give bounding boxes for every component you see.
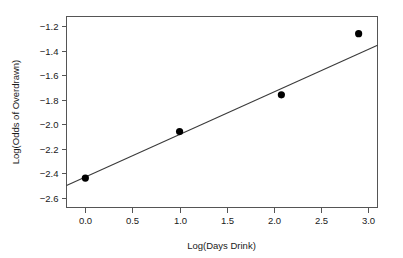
y-tick-label: −1.8 [40,95,59,106]
plot-frame [67,17,378,208]
y-tick-label: −1.4 [40,46,59,57]
chart-container: 0.00.51.01.52.02.53.0 −1.2−1.4−1.6−1.8−2… [0,0,403,258]
x-tick-label: 1.0 [174,215,187,226]
y-axis-title: Log(Odds of Overdrawn) [10,60,21,165]
x-tick-label: 2.0 [268,215,281,226]
x-axis-ticks [86,208,369,213]
x-axis-tick-labels: 0.00.51.01.52.02.53.0 [79,215,375,226]
x-tick-label: 0.5 [126,215,139,226]
x-tick-label: 2.5 [315,215,328,226]
y-tick-label: −1.6 [40,70,59,81]
x-tick-label: 1.5 [221,215,234,226]
y-tick-label: −1.2 [40,21,59,32]
data-point [278,91,285,98]
y-tick-label: −2.6 [40,193,59,204]
y-axis-tick-labels: −1.2−1.4−1.6−1.8−2.0−2.2−2.4−2.6 [40,21,59,204]
data-point [82,175,89,182]
data-point [355,30,362,37]
regression-line [67,45,378,185]
fitted-line [67,45,378,185]
y-tick-label: −2.2 [40,144,59,155]
data-point [176,128,183,135]
x-tick-label: 3.0 [362,215,375,226]
y-tick-label: −2.0 [40,119,59,130]
scatter-plot: 0.00.51.01.52.02.53.0 −1.2−1.4−1.6−1.8−2… [0,0,403,258]
y-tick-label: −2.4 [40,168,59,179]
data-points [82,30,363,182]
x-tick-label: 0.0 [79,215,92,226]
x-axis-title: Log(Days Drink) [187,240,256,251]
y-axis-ticks [62,27,67,199]
